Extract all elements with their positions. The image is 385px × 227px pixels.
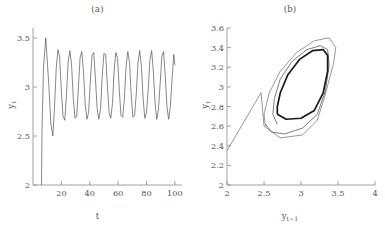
panel-a-ytick-3: 3 [25,82,30,92]
panel-a: (a) 2 2.5 3 3.5 [0,0,195,227]
panel-a-ytick-2: 2 [25,180,30,190]
panel-b-ytick-2.2: 2.2 [211,160,224,170]
panel-a-plot: 2 2.5 3 3.5 20 40 60 80 100 [0,0,195,227]
panel-b-ytick-3: 3 [219,82,224,92]
panel-a-xtick-20: 20 [56,188,66,198]
panel-b-ytick-3.6: 3.6 [211,23,224,33]
panel-b-transient-middle [265,46,329,134]
figure-container: (a) 2 2.5 3 3.5 [0,0,385,227]
panel-a-ytick-labels: 2 2.5 3 3.5 [17,33,30,190]
panel-a-xtick-100: 100 [167,188,183,198]
panel-b-xtick-3.5: 3.5 [331,188,344,198]
panel-b-ytick-2: 2 [219,180,224,190]
panel-b-xtick-2: 2 [224,188,229,198]
panel-b-ytick-2.6: 2.6 [211,121,224,131]
panel-b-ytick-2.4: 2.4 [211,141,224,151]
panel-a-xtick-marks [61,181,174,185]
panel-b-ytick-3.4: 3.4 [211,43,224,53]
panel-b-limit-cycle [277,50,327,120]
panel-a-xtick-60: 60 [113,188,123,198]
panel-a-axes [33,28,182,185]
panel-b-ytick-labels: 2 2.2 2.4 2.6 2.8 3 3.2 3.4 3.6 [211,23,224,190]
panel-a-ytick-marks [33,38,37,185]
panel-a-xtick-labels: 20 40 60 80 100 [56,188,183,198]
panel-a-ytick-2.5: 2.5 [17,131,30,141]
panel-a-xlabel: t [0,211,195,221]
panel-b-xtick-marks [227,181,375,185]
panel-b-xlabel: yt−1 [195,211,385,221]
panel-a-xtick-80: 80 [141,188,151,198]
panel-b-xtick-2.5: 2.5 [257,188,270,198]
panel-b-xtick-4: 4 [372,188,377,198]
panel-b-plot: 2 2.2 2.4 2.6 2.8 3 3.2 3.4 3.6 2 2.5 [195,0,385,227]
panel-a-series-line [42,38,175,185]
panel-a-ylabel: yt [6,90,16,120]
panel-a-ytick-3.5: 3.5 [17,33,30,43]
panel-a-xtick-40: 40 [85,188,95,198]
panel-b-xtick-3: 3 [298,188,303,198]
panel-b-ytick-3.2: 3.2 [211,62,224,72]
panel-b-ytick-marks [227,28,231,185]
panel-b-axes [227,28,375,185]
panel-b-ylabel: yt [200,90,210,120]
panel-b: (b) 2 2.2 2.4 2.6 [195,0,385,227]
panel-b-xtick-labels: 2 2.5 3 3.5 4 [224,188,377,198]
panel-b-ytick-2.8: 2.8 [211,102,224,112]
